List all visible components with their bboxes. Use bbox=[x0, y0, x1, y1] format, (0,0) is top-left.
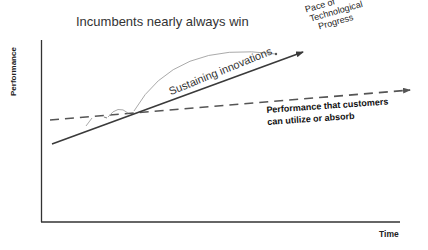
small-arc-1 bbox=[86, 118, 92, 126]
diagram-canvas bbox=[0, 0, 428, 250]
y-axis-label: Performance bbox=[9, 47, 18, 96]
x-axis-label: Time bbox=[379, 229, 399, 239]
diagram-title: Incumbents nearly always win bbox=[76, 14, 249, 29]
small-arc-3 bbox=[104, 117, 107, 118]
arc-end-dot bbox=[275, 53, 277, 55]
technology-progress-line bbox=[52, 52, 303, 144]
